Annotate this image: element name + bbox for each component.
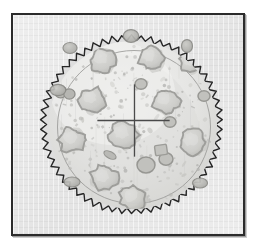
specimen-artwork	[13, 15, 243, 234]
plate-frame	[11, 13, 245, 236]
rim-colony	[64, 177, 80, 187]
colony	[164, 117, 176, 128]
colony	[135, 79, 147, 90]
specimen-svg	[13, 15, 243, 234]
rim-colony	[182, 40, 193, 53]
rim-colony	[193, 178, 208, 188]
rim-colony	[123, 30, 138, 43]
colony	[198, 91, 210, 102]
figure-root	[0, 0, 256, 247]
colony	[137, 157, 155, 173]
rim-colony	[63, 43, 77, 54]
colony	[154, 144, 167, 156]
rim-colony	[50, 84, 66, 95]
